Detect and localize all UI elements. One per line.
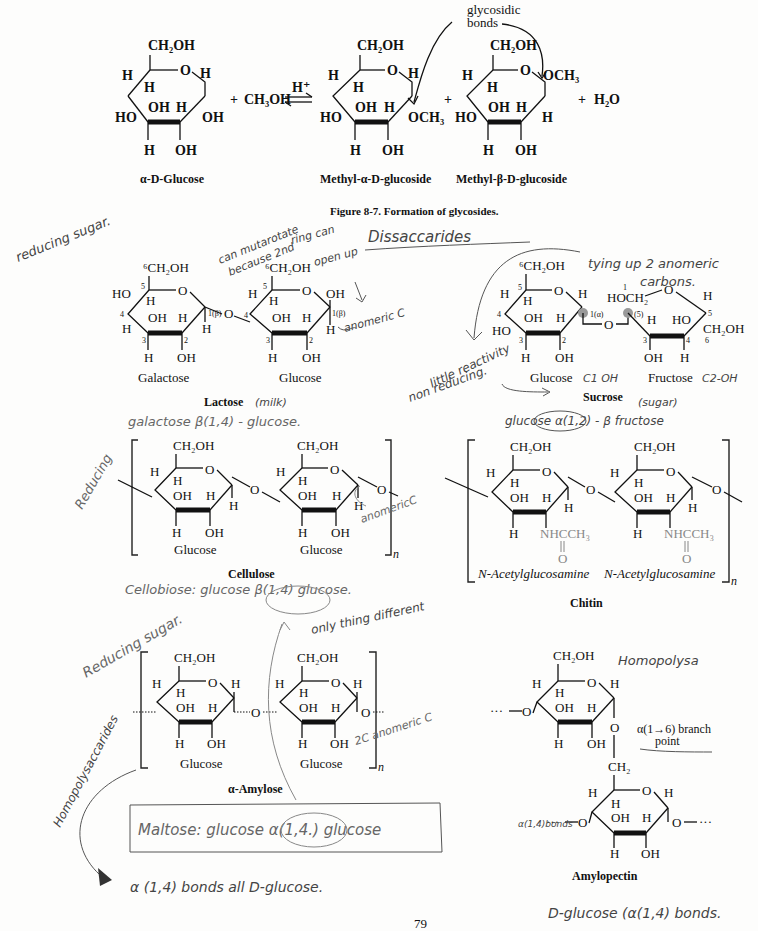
svg-text:Reducing sugar.: Reducing sugar.	[80, 611, 185, 681]
svg-text:5: 5	[518, 283, 522, 292]
svg-text:OH: OH	[177, 350, 196, 365]
svg-text:Glucose: Glucose	[530, 370, 573, 385]
svg-text:4: 4	[686, 336, 690, 345]
svg-text:O: O	[587, 675, 596, 690]
svg-text:H: H	[532, 676, 541, 691]
svg-text:O: O	[205, 462, 214, 477]
svg-text:5: 5	[263, 282, 267, 291]
svg-text:+: +	[230, 92, 238, 107]
svg-text:(sugar): (sugar)	[638, 396, 678, 409]
svg-text:H: H	[384, 100, 395, 115]
svg-text:OH: OH	[330, 736, 349, 751]
svg-text:OH: OH	[272, 310, 291, 325]
svg-text:Chitin: Chitin	[570, 596, 603, 610]
svg-text:H: H	[298, 473, 307, 488]
svg-text:H: H	[587, 700, 596, 715]
svg-text:O: O	[642, 783, 651, 798]
svg-text:Glucose: Glucose	[174, 542, 217, 557]
svg-text:H: H	[556, 310, 565, 325]
svg-text:3: 3	[643, 336, 647, 345]
svg-text:H: H	[146, 293, 155, 308]
svg-text:Methyl-α-D-glucoside: Methyl-α-D-glucoside	[320, 172, 432, 186]
svg-text:HO: HO	[672, 312, 691, 327]
svg-text:Glucose: Glucose	[180, 756, 223, 771]
svg-text:H: H	[176, 100, 187, 115]
svg-text:bonds: bonds	[467, 15, 498, 30]
svg-text:n: n	[378, 760, 384, 774]
svg-text:H: H	[350, 143, 361, 158]
svg-text:CH₂OH: CH₂OH	[510, 439, 551, 454]
svg-text:O: O	[302, 283, 311, 298]
svg-text:H: H	[647, 312, 656, 327]
svg-text:H: H	[175, 736, 184, 751]
svg-text:O: O	[558, 551, 567, 566]
svg-text:OCH₃: OCH₃	[543, 68, 579, 83]
svg-text:O: O	[178, 283, 187, 298]
svg-text:reducing sugar.: reducing sugar.	[14, 213, 113, 265]
amylopectin-structure: CH₂OH O H H OH H H ··· O H OH O CH₂ α(1→…	[490, 648, 712, 883]
svg-text:O: O	[224, 306, 233, 321]
svg-text:only thing different: only thing different	[310, 599, 427, 637]
svg-text:6: 6	[705, 336, 709, 345]
svg-text:α (1,4) bonds all D-glucose: α (1,4) bonds all D-glucose.	[130, 879, 323, 895]
svg-text:HO: HO	[455, 110, 477, 125]
svg-text:H: H	[680, 350, 689, 365]
svg-text:H: H	[354, 498, 363, 513]
svg-text:CH₂OH: CH₂OH	[297, 650, 338, 665]
svg-text:H: H	[268, 350, 277, 365]
svg-text:OH: OH	[173, 488, 192, 503]
svg-text:O: O	[251, 705, 260, 720]
svg-text:H: H	[202, 321, 211, 336]
svg-text:H: H	[328, 68, 339, 83]
svg-text:H: H	[269, 293, 278, 308]
svg-text:CH₂OH: CH₂OH	[553, 648, 594, 663]
svg-text:H: H	[642, 810, 651, 825]
svg-text:O: O	[682, 551, 691, 566]
svg-text:H: H	[462, 68, 473, 83]
svg-text:HO: HO	[112, 286, 131, 301]
svg-text:O: O	[522, 704, 531, 719]
svg-text:CH₂OH: CH₂OH	[297, 438, 338, 453]
svg-text:OH: OH	[510, 490, 529, 505]
svg-text:Reducing: Reducing	[72, 451, 115, 511]
svg-text:H: H	[144, 80, 155, 95]
svg-text:point: point	[655, 734, 680, 748]
svg-text:OH: OH	[202, 110, 224, 125]
svg-text:CH₂OH: CH₂OH	[357, 38, 404, 53]
figure-caption: Figure 8-7. Formation of glycosides.	[330, 205, 499, 217]
svg-text:5: 5	[141, 282, 145, 291]
svg-text:CH₂: CH₂	[608, 759, 631, 774]
svg-text:4: 4	[120, 310, 124, 319]
svg-text:Homopolysa: Homopolysa	[618, 653, 699, 668]
svg-text:n: n	[393, 547, 399, 561]
svg-text:H: H	[610, 465, 619, 480]
svg-text:⁶CH₂OH: ⁶CH₂OH	[143, 260, 189, 275]
svg-text:OH: OH	[205, 525, 224, 540]
svg-text:HO: HO	[320, 110, 342, 125]
svg-text:OH: OH	[641, 846, 660, 861]
svg-text:2: 2	[184, 336, 188, 345]
svg-text:H: H	[248, 286, 257, 301]
amylose-structure: n CH₂OH O H H OH H H O H OH Glucose CH₂O…	[133, 650, 385, 796]
svg-text:O: O	[208, 675, 217, 690]
svg-text:O: O	[712, 482, 721, 497]
svg-text:Lactose: Lactose	[204, 395, 244, 409]
svg-text:H: H	[231, 676, 240, 691]
svg-text:CH₃OH: CH₃OH	[244, 92, 291, 107]
svg-text:H: H	[298, 525, 307, 540]
svg-text:H: H	[275, 676, 284, 691]
textbook-page: CH₂OH O H H OH H H HO OH H OH α-D-Glucos…	[0, 0, 758, 931]
svg-text:H: H	[510, 475, 519, 490]
svg-text:O: O	[387, 63, 398, 78]
svg-text:H: H	[509, 526, 518, 541]
svg-text:O: O	[610, 720, 619, 735]
svg-text:H: H	[688, 500, 697, 515]
svg-text:H: H	[408, 66, 419, 81]
svg-text:OH: OH	[355, 100, 377, 115]
svg-text:H: H	[542, 110, 553, 125]
svg-text:n: n	[731, 574, 737, 588]
svg-text:H: H	[144, 143, 155, 158]
svg-text:O: O	[672, 815, 681, 830]
methyl-alpha-glucoside-structure: CH₂OH O H H OH H H HO OCH₃ H OH Methyl-α…	[320, 38, 444, 186]
svg-text:HO: HO	[115, 110, 137, 125]
